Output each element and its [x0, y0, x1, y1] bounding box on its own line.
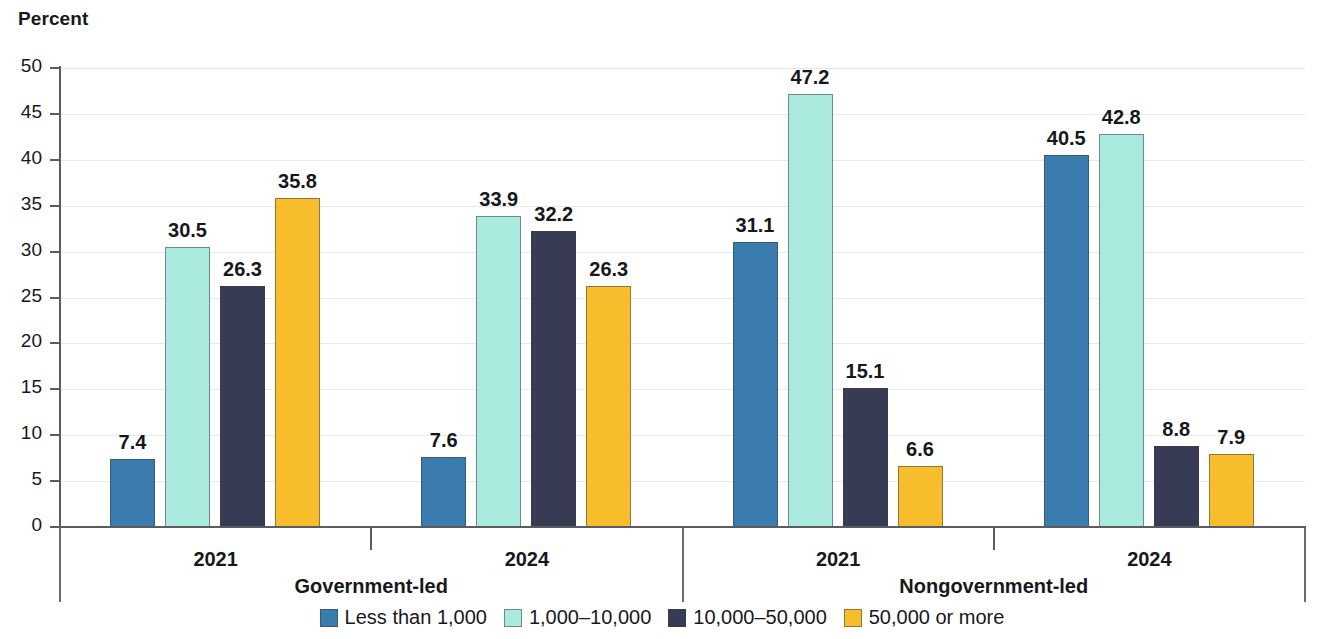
- bar-value-label: 15.1: [829, 360, 902, 383]
- x-group-separator: [682, 528, 684, 602]
- legend-item: 10,000–50,000: [668, 606, 826, 629]
- legend-swatch-icon: [668, 609, 686, 627]
- y-tick-35: [50, 205, 60, 207]
- legend-item: Less than 1,000: [320, 606, 487, 629]
- x-year-label: 2024: [1089, 548, 1209, 571]
- y-tick-50: [50, 67, 60, 69]
- x-tick-minor: [370, 528, 372, 550]
- bar: [421, 457, 466, 527]
- y-tick-label-25: 25: [0, 285, 42, 307]
- plot-area: 7.430.526.335.87.633.932.226.331.147.215…: [60, 68, 1305, 527]
- bar-value-label: 6.6: [884, 438, 957, 461]
- bar-value-label: 26.3: [206, 258, 279, 281]
- legend-swatch-icon: [504, 609, 522, 627]
- y-tick-label-35: 35: [0, 193, 42, 215]
- x-group-separator: [59, 528, 61, 602]
- bar: [220, 286, 265, 527]
- y-tick-30: [50, 251, 60, 253]
- y-tick-40: [50, 159, 60, 161]
- x-group-label: Nongovernment-led: [834, 575, 1154, 598]
- x-year-label: 2024: [467, 548, 587, 571]
- bar-value-label: 42.8: [1085, 106, 1158, 129]
- bar: [843, 388, 888, 527]
- y-tick-25: [50, 297, 60, 299]
- bar-chart-figure: Percent 7.430.526.335.87.633.932.226.331…: [0, 0, 1324, 639]
- bar: [788, 94, 833, 527]
- x-group-separator: [1304, 528, 1306, 602]
- x-tick-minor: [993, 528, 995, 550]
- y-tick-label-45: 45: [0, 101, 42, 123]
- bar: [531, 231, 576, 527]
- y-tick-15: [50, 388, 60, 390]
- y-tick-label-30: 30: [0, 239, 42, 261]
- chart-legend: Less than 1,0001,000–10,00010,000–50,000…: [0, 606, 1324, 629]
- y-tick-5: [50, 480, 60, 482]
- legend-item: 1,000–10,000: [504, 606, 651, 629]
- legend-swatch-icon: [320, 609, 338, 627]
- x-group-label: Government-led: [211, 575, 531, 598]
- y-tick-label-20: 20: [0, 330, 42, 352]
- y-axis-title: Percent: [18, 8, 88, 30]
- bar: [1154, 446, 1199, 527]
- legend-label: 10,000–50,000: [693, 606, 826, 629]
- bar-value-label: 26.3: [572, 258, 645, 281]
- y-tick-label-0: 0: [0, 514, 42, 536]
- bar-value-label: 35.8: [261, 170, 334, 193]
- bar-value-label: 7.9: [1195, 426, 1268, 449]
- legend-label: Less than 1,000: [345, 606, 487, 629]
- y-tick-label-15: 15: [0, 376, 42, 398]
- bar: [1044, 155, 1089, 527]
- bar: [275, 198, 320, 527]
- bar: [1209, 454, 1254, 527]
- gridline-50: [60, 68, 1305, 69]
- legend-swatch-icon: [844, 609, 862, 627]
- bar: [586, 286, 631, 527]
- y-tick-label-40: 40: [0, 147, 42, 169]
- y-tick-label-10: 10: [0, 422, 42, 444]
- bar-value-label: 30.5: [151, 219, 224, 242]
- bar-value-label: 40.5: [1030, 127, 1103, 150]
- y-tick-10: [50, 434, 60, 436]
- legend-label: 50,000 or more: [869, 606, 1005, 629]
- bar-value-label: 32.2: [517, 203, 590, 226]
- y-tick-45: [50, 113, 60, 115]
- y-tick-label-5: 5: [0, 468, 42, 490]
- legend-item: 50,000 or more: [844, 606, 1005, 629]
- legend-label: 1,000–10,000: [529, 606, 651, 629]
- bar-value-label: 7.4: [96, 431, 169, 454]
- bar: [898, 466, 943, 527]
- bar: [110, 459, 155, 527]
- y-tick-20: [50, 342, 60, 344]
- bar-value-label: 31.1: [719, 214, 792, 237]
- bar-value-label: 7.6: [407, 429, 480, 452]
- bar-value-label: 47.2: [774, 66, 847, 89]
- bar: [733, 242, 778, 527]
- y-tick-label-50: 50: [0, 55, 42, 77]
- bar: [1099, 134, 1144, 527]
- bar: [476, 216, 521, 527]
- x-year-label: 2021: [156, 548, 276, 571]
- bar: [165, 247, 210, 527]
- x-year-label: 2021: [778, 548, 898, 571]
